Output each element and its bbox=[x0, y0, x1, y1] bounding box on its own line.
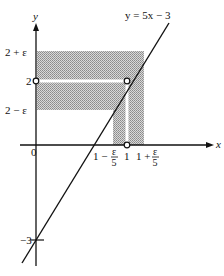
open-point-1-2 bbox=[124, 78, 130, 84]
x-tick-1-minus-den: 5 bbox=[112, 157, 117, 168]
x-tick-1-plus-den: 5 bbox=[153, 157, 158, 168]
y-tick-2: 2 bbox=[26, 75, 32, 87]
equation-label: y = 5x − 3 bbox=[125, 9, 171, 21]
x-axis-label: x bbox=[215, 138, 221, 150]
y-axis-label: y bbox=[32, 10, 38, 22]
open-point-x-axis-1 bbox=[124, 142, 130, 148]
x-tick-1-minus-num: ε bbox=[112, 146, 116, 157]
y-tick-2-minus-eps: 2 − ε bbox=[5, 104, 27, 116]
x-tick-1-plus-main: 1 + bbox=[136, 150, 150, 162]
y-tick-minus-3: −3 bbox=[20, 234, 32, 246]
x-tick-1-minus-main: 1 − bbox=[93, 150, 107, 162]
x-axis-arrow-icon bbox=[206, 142, 214, 148]
open-point-y-axis-2 bbox=[33, 78, 39, 84]
origin-label: 0 bbox=[31, 146, 37, 158]
y-axis-arrow-icon bbox=[33, 23, 39, 31]
epsilon-delta-diagram: y = 5x − 3 y x 0 2 + ε 2 2 − ε −3 1 − ε … bbox=[0, 0, 224, 276]
x-tick-1: 1 bbox=[124, 150, 130, 162]
y-tick-2-plus-eps: 2 + ε bbox=[5, 46, 27, 58]
x-tick-1-plus-num: ε bbox=[153, 146, 157, 157]
